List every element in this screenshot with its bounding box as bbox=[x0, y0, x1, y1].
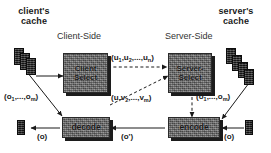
object-out-left-label: (o) bbox=[37, 132, 47, 141]
encode-label: encode bbox=[179, 123, 208, 132]
label-sub-m: m bbox=[144, 97, 149, 103]
client-select-label: Client Select bbox=[74, 64, 97, 82]
server-select-box[interactable]: Server- Select bbox=[168, 53, 212, 93]
label-part-open: (o bbox=[196, 92, 204, 101]
client-cache-objects-label: (o1,...,om) bbox=[4, 92, 38, 102]
encode-input-object bbox=[245, 120, 253, 135]
label-sub-2: 2 bbox=[125, 97, 128, 103]
uv-vector-label: (u,v2,...,vm) bbox=[111, 93, 151, 103]
label-part-mid: ,...,o bbox=[207, 92, 223, 101]
label-part-mid: ,...,o bbox=[15, 92, 31, 101]
label-sub-m: m bbox=[223, 96, 228, 102]
label-sub-n: n bbox=[148, 57, 151, 63]
label-sub-2: 2 bbox=[129, 57, 132, 63]
decoded-output-object bbox=[17, 120, 25, 135]
label-sub-1: 1 bbox=[119, 57, 122, 63]
label-part-close: ) bbox=[151, 53, 154, 62]
label-part-open: (u,v bbox=[111, 93, 125, 102]
object-delta-label: (o') bbox=[121, 132, 133, 141]
label-part-mid2: ,...,u bbox=[132, 53, 148, 62]
server-cache-object-4 bbox=[244, 69, 254, 85]
decode-box[interactable]: decode bbox=[62, 117, 110, 138]
label-part-mid: ,...,v bbox=[128, 93, 144, 102]
server-side-label: Server-Side bbox=[165, 31, 213, 41]
label-part-open: (o bbox=[4, 92, 12, 101]
server-cache-objects-label: (o1,...,om) bbox=[196, 92, 230, 102]
label-sub-1: 1 bbox=[12, 96, 15, 102]
client-cache-object-3 bbox=[26, 58, 36, 75]
client-select-box[interactable]: Client Select bbox=[63, 53, 108, 93]
label-part-close: ) bbox=[149, 93, 152, 102]
decode-label: decode bbox=[71, 123, 100, 132]
object-in-right-label: (o) bbox=[224, 132, 234, 141]
label-sub-m: m bbox=[31, 96, 36, 102]
client-cache-title: client's cache bbox=[2, 6, 66, 26]
label-part-open: (u bbox=[111, 53, 119, 62]
label-part-mid1: ,u bbox=[122, 53, 129, 62]
u-vector-label: (u1,u2,...,un) bbox=[111, 53, 154, 63]
dataflow-diagram: client's cache server's cache Client-Sid… bbox=[0, 0, 271, 153]
encode-box[interactable]: encode bbox=[168, 117, 220, 138]
server-select-label: Server- Select bbox=[177, 64, 204, 82]
label-sub-1: 1 bbox=[204, 96, 207, 102]
server-cache-title: server's cache bbox=[204, 6, 268, 26]
client-side-label: Client-Side bbox=[57, 31, 101, 41]
